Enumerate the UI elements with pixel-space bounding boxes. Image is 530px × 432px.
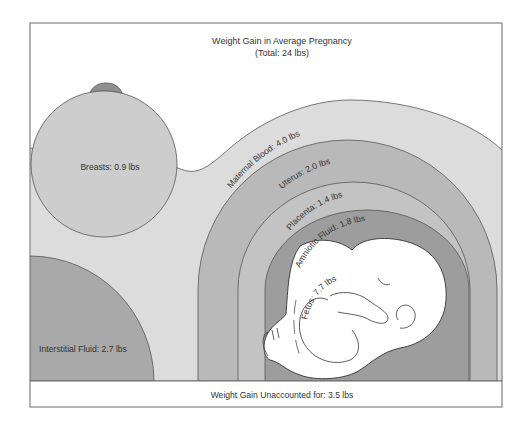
breasts-label: Breasts: 0.9 lbs xyxy=(80,162,139,172)
interstitial-fluid-label: Interstitial Fluid: 2.7 lbs xyxy=(39,344,127,354)
pregnancy-weight-gain-diagram: Weight Gain in Average Pregnancy (Total:… xyxy=(0,0,530,432)
diagram-subtitle: (Total: 24 lbs) xyxy=(255,48,309,58)
unaccounted-label: Weight Gain Unaccounted for: 3.5 lbs xyxy=(211,390,354,400)
diagram-title: Weight Gain in Average Pregnancy xyxy=(212,36,352,46)
